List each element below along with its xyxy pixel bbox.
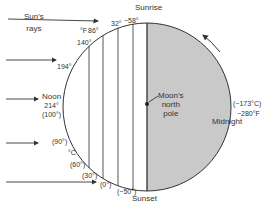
north-pole-dot xyxy=(145,102,149,106)
sun-rays-label: Sun's rays xyxy=(24,12,44,33)
temp-f-32: 32° xyxy=(111,19,122,28)
midnight-temp-c: (−173°C) xyxy=(233,99,261,108)
midnight-label: Midnight xyxy=(212,117,242,126)
temp-c-30: (30°) xyxy=(82,171,97,180)
temp-c-0: (0°) xyxy=(100,180,111,189)
temp-f-86: 86° xyxy=(88,26,99,35)
temp-c-90: (90°) xyxy=(52,137,67,146)
temp-f-minus58: −58° xyxy=(124,16,139,25)
temp-c-60: (60°) xyxy=(70,160,85,169)
sunrise-label: Sunrise xyxy=(135,3,162,12)
noon-label: Noon 214° (100°) xyxy=(42,92,61,119)
temp-f-140: 140° xyxy=(77,38,91,47)
celsius-unit-label: °C xyxy=(68,148,76,157)
sunset-label: Sunset xyxy=(132,194,157,203)
temp-f-194: 194° xyxy=(57,62,71,71)
fahrenheit-unit-label: °F xyxy=(80,26,87,35)
north-pole-label: Moon's north pole xyxy=(158,91,184,118)
